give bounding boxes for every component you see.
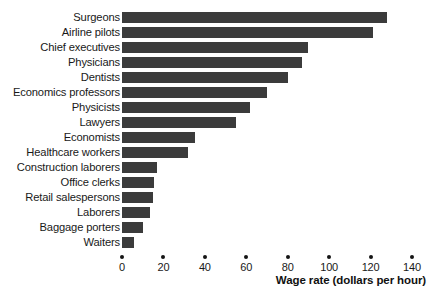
bar <box>122 207 150 218</box>
x-axis-tick-label: 100 <box>309 261 349 273</box>
bar-row: Dentists <box>0 70 432 85</box>
category-label: Economics professors <box>13 85 120 100</box>
bar <box>122 102 250 113</box>
x-axis-tick-dot <box>410 255 414 259</box>
bar <box>122 132 195 143</box>
category-label: Airline pilots <box>62 25 120 40</box>
bar-row: Office clerks <box>0 175 432 190</box>
category-label: Physicists <box>72 100 120 115</box>
bar-row: Waiters <box>0 235 432 250</box>
bar <box>122 222 143 233</box>
bar-row: Healthcare workers <box>0 145 432 160</box>
x-axis-tick-label: 120 <box>351 261 391 273</box>
bar <box>122 177 154 188</box>
x-axis-tick-label: 0 <box>102 261 142 273</box>
bar-row: Economics professors <box>0 85 432 100</box>
bar-row: Lawyers <box>0 115 432 130</box>
x-axis-tick-label: 140 <box>392 261 432 273</box>
bar-row: Construction laborers <box>0 160 432 175</box>
plot-area: SurgeonsAirline pilotsChief executivesPh… <box>0 0 432 293</box>
category-label: Office clerks <box>61 175 120 190</box>
category-label: Retail salespersons <box>25 190 120 205</box>
category-label: Healthcare workers <box>26 145 120 160</box>
x-axis-tick-label: 40 <box>185 261 225 273</box>
bar <box>122 147 188 158</box>
bar-row: Retail salespersons <box>0 190 432 205</box>
x-axis-tick-label: 20 <box>143 261 183 273</box>
category-label: Surgeons <box>73 10 120 25</box>
category-label: Waiters <box>84 235 120 250</box>
bar <box>122 87 267 98</box>
bar <box>122 12 387 23</box>
wage-rate-bar-chart: SurgeonsAirline pilotsChief executivesPh… <box>0 0 432 293</box>
bar <box>122 117 236 128</box>
bar <box>122 192 153 203</box>
bar <box>122 237 134 248</box>
category-label: Lawyers <box>79 115 120 130</box>
category-label: Chief executives <box>40 40 120 55</box>
bar-row: Physicists <box>0 100 432 115</box>
bar-row: Chief executives <box>0 40 432 55</box>
x-axis-tick-dot <box>120 255 124 259</box>
bar-row: Laborers <box>0 205 432 220</box>
bar-row: Airline pilots <box>0 25 432 40</box>
bar <box>122 42 308 53</box>
category-label: Construction laborers <box>17 160 120 175</box>
x-axis-title: Wage rate (dollars per hour) <box>276 274 426 286</box>
category-label: Economists <box>64 130 120 145</box>
bar-row: Economists <box>0 130 432 145</box>
bar <box>122 72 288 83</box>
x-axis-tick-dot <box>369 255 373 259</box>
bar-row: Physicians <box>0 55 432 70</box>
x-axis-tick-label: 60 <box>226 261 266 273</box>
category-label: Laborers <box>77 205 120 220</box>
category-label: Physicians <box>68 55 120 70</box>
x-axis-tick-dot <box>203 255 207 259</box>
x-axis-tick-dot <box>286 255 290 259</box>
category-label: Baggage porters <box>40 220 120 235</box>
bar-row: Surgeons <box>0 10 432 25</box>
x-axis-tick-label: 80 <box>268 261 308 273</box>
bar-row: Baggage porters <box>0 220 432 235</box>
bar <box>122 162 157 173</box>
category-label: Dentists <box>81 70 120 85</box>
bar <box>122 57 302 68</box>
bar <box>122 27 373 38</box>
